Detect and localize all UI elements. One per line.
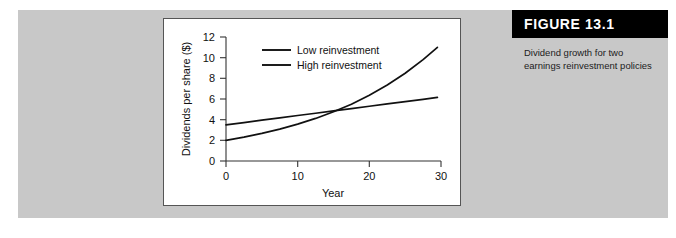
series-line-low-reinvestment — [226, 97, 437, 124]
y-axis-ticks — [220, 37, 226, 161]
x-axis-tick-labels: 0 10 20 30 — [223, 170, 447, 182]
chart-plot-card: 0 2 4 6 8 10 12 0 10 20 30 — [163, 18, 461, 206]
y-axis-tick-labels: 0 2 4 6 8 10 12 — [203, 31, 215, 167]
x-tick-label: 20 — [363, 170, 375, 182]
legend-label-high-reinvestment: High reinvestment — [297, 59, 382, 71]
dividend-growth-line-chart: 0 2 4 6 8 10 12 0 10 20 30 — [164, 19, 462, 207]
figure-caption-text: Dividend growth for two earnings reinves… — [524, 46, 670, 72]
y-tick-label: 6 — [209, 93, 215, 105]
y-tick-label: 2 — [209, 134, 215, 146]
x-axis-title: Year — [322, 187, 345, 199]
y-tick-label: 10 — [203, 52, 215, 64]
legend-label-low-reinvestment: Low reinvestment — [297, 44, 379, 56]
figure-number-label: FIGURE 13.1 — [524, 16, 615, 32]
x-tick-label: 10 — [292, 170, 304, 182]
y-tick-label: 0 — [209, 155, 215, 167]
x-tick-label: 30 — [435, 170, 447, 182]
y-tick-label: 4 — [209, 114, 215, 126]
x-tick-label: 0 — [223, 170, 229, 182]
figure-caption-line-1: Dividend growth for two — [524, 47, 623, 58]
x-axis-ticks — [226, 161, 441, 167]
y-tick-label: 8 — [209, 72, 215, 84]
figure-caption-line-2: earnings reinvestment policies — [524, 60, 652, 71]
chart-legend: Low reinvestment High reinvestment — [262, 44, 382, 71]
y-tick-label: 12 — [203, 31, 215, 43]
figure-caption-block: FIGURE 13.1 Dividend growth for two earn… — [512, 10, 668, 110]
y-axis-title: Dividends per share ($) — [180, 42, 192, 156]
figure-panel: 0 2 4 6 8 10 12 0 10 20 30 — [18, 10, 668, 218]
